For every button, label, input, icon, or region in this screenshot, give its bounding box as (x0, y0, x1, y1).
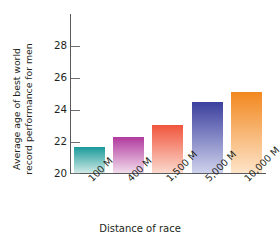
y-tick-label-28: 28 (45, 40, 67, 50)
x-axis-title: Distance of race (0, 223, 280, 235)
y-axis-title: Average age of best world record perform… (6, 24, 40, 194)
y-tick-20 (71, 173, 80, 174)
y-tick-label-22: 22 (45, 136, 67, 146)
y-axis-title-line-1: Average age of best world (11, 48, 23, 170)
bar-chart: Average age of best world record perform… (0, 0, 280, 243)
y-tick-label-26: 26 (45, 72, 67, 82)
y-axis-title-line-2: record performance for men (23, 43, 35, 174)
y-tick-label-24: 24 (45, 104, 67, 114)
bar-series (70, 14, 266, 173)
x-tick-labels: 100 M 400 M 1,500 M 5,000 M 10,000 M (0, 176, 280, 220)
